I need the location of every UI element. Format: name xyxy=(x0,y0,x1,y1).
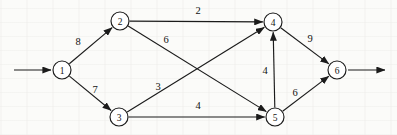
node-3-label: 3 xyxy=(117,113,122,123)
diagram-canvas: 123456 872634496 xyxy=(0,0,397,135)
node-2[interactable]: 2 xyxy=(111,12,129,30)
node-5[interactable]: 5 xyxy=(266,108,284,126)
edge-4-6-weight: 9 xyxy=(307,33,312,44)
node-4[interactable]: 4 xyxy=(264,13,282,31)
edge-2-4 xyxy=(130,21,263,22)
edge-1-3-weight: 7 xyxy=(92,84,97,95)
edge-5-6 xyxy=(283,76,329,111)
node-1-label: 1 xyxy=(60,66,65,76)
edge-5-6-weight: 6 xyxy=(292,87,297,98)
edge-3-4-weight: 3 xyxy=(155,81,160,92)
node-2-label: 2 xyxy=(118,17,123,27)
edge-2-5-weight: 6 xyxy=(163,34,168,45)
edge-1-3 xyxy=(69,76,111,110)
network-flow-diagram: 123456 872634496 xyxy=(0,0,397,135)
edge-4-6 xyxy=(281,28,329,64)
edge-5-4 xyxy=(273,32,275,107)
edge-2-4-weight: 2 xyxy=(195,5,200,16)
node-6-label: 6 xyxy=(335,66,340,76)
node-3[interactable]: 3 xyxy=(110,108,128,126)
edge-1-2-weight: 8 xyxy=(75,36,80,47)
edge-5-4-weight: 4 xyxy=(262,65,268,76)
node-6[interactable]: 6 xyxy=(328,61,346,79)
node-4-label: 4 xyxy=(271,18,276,28)
node-5-label: 5 xyxy=(273,113,278,123)
edge-3-5-weight: 4 xyxy=(195,100,201,111)
node-1[interactable]: 1 xyxy=(53,61,71,79)
